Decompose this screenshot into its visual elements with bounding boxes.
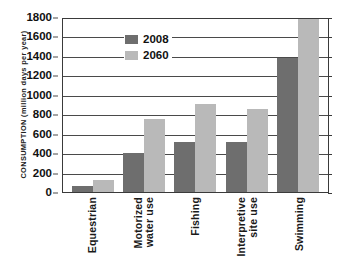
bar [226, 142, 247, 192]
y-axis-tick-label: 1800 [26, 12, 52, 24]
legend-item: 2008 [124, 33, 172, 47]
y-axis-tick-mark [53, 76, 58, 77]
bar-chart: CONSUMPTION (million days per year) 1800… [0, 0, 349, 261]
axis-tick-right [328, 154, 332, 155]
bar [174, 142, 195, 192]
bar-group [226, 18, 268, 192]
x-axis-category: Swimming [276, 195, 322, 261]
bar [195, 104, 216, 192]
legend-label: 2060 [143, 50, 169, 62]
y-axis-tick-label: 600 [33, 129, 52, 141]
y-axis-tick-label: 800 [33, 109, 52, 121]
bar [277, 58, 298, 192]
y-axis-tick-mark [53, 18, 58, 19]
x-axis-category: Equestrian [69, 195, 115, 261]
y-axis-tick-label: 1000 [26, 90, 52, 102]
axis-tick-right [328, 18, 332, 19]
legend-label: 2008 [143, 34, 169, 46]
y-axis-tick-label: 200 [33, 168, 52, 180]
y-axis-tick-label: 1400 [26, 51, 52, 63]
bar [72, 186, 93, 192]
axis-tick-right [328, 135, 332, 136]
x-axis-tick-labels: EquestrianMotorizedwater useFishingInter… [62, 195, 329, 261]
y-axis-tick-mark [53, 154, 58, 155]
bars-layer [63, 18, 328, 192]
x-axis-category: Interpretivesite use [224, 195, 270, 261]
x-axis-tick-label: water use [144, 197, 155, 247]
y-axis-tick-mark [53, 37, 58, 38]
y-axis-tick-label: 1200 [26, 71, 52, 83]
x-axis-tick-label: site use [248, 197, 259, 238]
legend-swatch [125, 51, 138, 60]
x-axis-category: Motorizedwater use [121, 195, 167, 261]
x-axis-tick-label: Equestrian [87, 197, 98, 253]
y-axis-tick-mark [53, 115, 58, 116]
y-axis-tick-mark [53, 95, 58, 96]
legend-item: 2060 [124, 49, 172, 63]
x-axis-tick-label: Fishing [190, 197, 201, 236]
bar [298, 19, 319, 192]
bar [144, 119, 165, 192]
plot-area [62, 18, 329, 193]
axis-tick-right [328, 115, 332, 116]
y-axis-tick-labels: 180016001400120010008006004002000 [0, 18, 58, 193]
bar [123, 153, 144, 192]
bar-group [174, 18, 216, 192]
bar [247, 109, 268, 192]
axis-tick-right [328, 193, 332, 194]
axis-tick-right [328, 76, 332, 77]
bar-group [72, 18, 114, 192]
y-axis-tick-mark [53, 134, 58, 135]
bar-group [277, 18, 319, 192]
x-axis-category: Fishing [172, 195, 218, 261]
axis-tick-right [328, 174, 332, 175]
y-axis-tick-mark [53, 193, 58, 194]
x-axis-tick-label: Swimming [294, 197, 305, 251]
legend: 20082060 [124, 33, 172, 64]
y-axis-tick-mark [53, 173, 58, 174]
axis-tick-right [328, 96, 332, 97]
x-axis-tick-label: Interpretive [236, 197, 247, 257]
y-axis-tick-label: 1600 [26, 32, 52, 44]
axis-tick-right [328, 57, 332, 58]
legend-swatch [125, 35, 138, 44]
y-axis-tick-label: 0 [46, 187, 52, 199]
x-axis-tick-label: Motorized [133, 197, 144, 248]
axis-tick-right [328, 37, 332, 38]
y-axis-tick-mark [53, 56, 58, 57]
bar [93, 180, 114, 192]
y-axis-tick-label: 400 [33, 148, 52, 160]
